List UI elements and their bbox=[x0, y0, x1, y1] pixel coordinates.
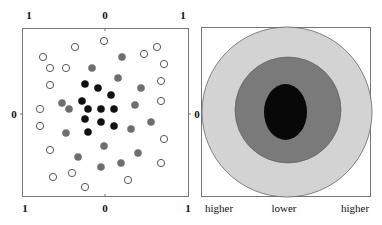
point-black bbox=[110, 105, 117, 112]
point-hollow bbox=[36, 122, 43, 129]
point-hollow bbox=[71, 43, 78, 50]
point-hollow bbox=[49, 173, 56, 180]
point-hollow bbox=[157, 159, 164, 166]
point-black bbox=[81, 115, 88, 122]
point-hollow bbox=[81, 183, 88, 190]
point-hollow bbox=[140, 50, 147, 57]
point-hollow bbox=[62, 64, 69, 71]
point-gray bbox=[65, 105, 72, 112]
bottom-label-center: lower bbox=[271, 202, 296, 214]
point-gray bbox=[127, 125, 134, 132]
point-black bbox=[97, 105, 104, 112]
point-black bbox=[94, 84, 101, 91]
bottom-tick-center: 0 bbox=[102, 202, 108, 214]
point-hollow bbox=[100, 37, 107, 44]
point-hollow bbox=[46, 64, 53, 71]
point-hollow bbox=[153, 43, 160, 50]
point-hollow bbox=[124, 176, 131, 183]
point-black bbox=[110, 122, 117, 129]
point-black bbox=[84, 105, 91, 112]
right-tick-label: 0 bbox=[194, 108, 200, 120]
left-tick-label: 0 bbox=[11, 108, 17, 120]
point-gray bbox=[117, 159, 124, 166]
point-hollow bbox=[157, 77, 164, 84]
point-hollow bbox=[46, 81, 53, 88]
point-gray bbox=[97, 163, 104, 170]
point-black bbox=[84, 128, 91, 135]
left-plot-frame bbox=[23, 29, 189, 197]
point-gray bbox=[74, 153, 81, 160]
point-hollow bbox=[157, 97, 164, 104]
top-tick-center: 0 bbox=[102, 9, 108, 21]
point-black bbox=[97, 118, 104, 125]
point-black bbox=[81, 80, 88, 87]
right-panel: higher lower higher bbox=[202, 27, 373, 214]
point-gray bbox=[118, 53, 125, 60]
bottom-label-right: higher bbox=[341, 202, 369, 214]
top-tick-right: 1 bbox=[180, 9, 186, 21]
point-hollow bbox=[160, 60, 167, 67]
point-gray bbox=[131, 101, 138, 108]
point-hollow bbox=[68, 169, 75, 176]
top-tick-left: 1 bbox=[26, 9, 32, 21]
point-hollow bbox=[36, 105, 43, 112]
point-hollow bbox=[46, 146, 53, 153]
point-gray bbox=[58, 99, 65, 106]
point-gray bbox=[114, 74, 121, 81]
inner-region bbox=[264, 84, 307, 140]
bottom-tick-right: 1 bbox=[185, 202, 191, 214]
point-gray bbox=[100, 142, 107, 149]
point-gray bbox=[147, 118, 154, 125]
point-hollow bbox=[160, 135, 167, 142]
point-gray bbox=[137, 84, 144, 91]
left-panel: 1 0 1 1 0 1 0 0 bbox=[11, 9, 200, 214]
point-gray bbox=[88, 64, 95, 71]
point-black bbox=[78, 97, 85, 104]
point-hollow bbox=[39, 53, 46, 60]
bottom-tick-left: 1 bbox=[22, 202, 28, 214]
point-black bbox=[107, 91, 114, 98]
point-gray bbox=[62, 129, 69, 136]
figure: 1 0 1 1 0 1 0 0 higher lower higher bbox=[0, 0, 382, 225]
point-gray bbox=[134, 149, 141, 156]
bottom-label-left: higher bbox=[205, 202, 233, 214]
